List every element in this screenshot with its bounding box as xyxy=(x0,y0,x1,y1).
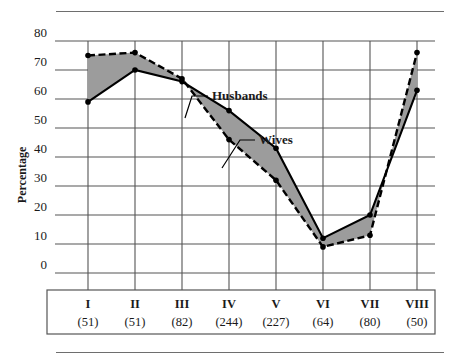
y-tick-60: 60 xyxy=(34,83,47,98)
wives-point-I xyxy=(85,99,91,105)
husbands-point-I xyxy=(85,53,91,59)
y-tick-80: 80 xyxy=(34,25,47,40)
annotation-label-husbands: Husbands xyxy=(212,88,268,103)
husbands-point-IV xyxy=(226,137,232,143)
y-tick-10: 10 xyxy=(34,228,47,243)
x-category-count-8: (50) xyxy=(407,315,428,329)
wives-point-IV xyxy=(226,108,232,114)
husbands-point-III xyxy=(179,76,185,82)
x-category-count-5: (227) xyxy=(262,315,289,329)
figure: Husbands Wives 80 70 60 50 40 30 20 10 0… xyxy=(0,0,460,362)
y-axis-title: Percentage xyxy=(15,146,29,203)
y-tick-30: 30 xyxy=(34,170,47,185)
x-category-label-1: I xyxy=(86,297,91,311)
y-tick-70: 70 xyxy=(34,54,47,69)
series-difference-band xyxy=(88,53,417,247)
x-axis-category-labels: I (51) II (51) III (82) IV (244) V (227)… xyxy=(78,297,429,329)
wives-point-VIII xyxy=(414,88,420,94)
husbands-point-VI xyxy=(320,244,326,250)
x-category-label-2: II xyxy=(130,297,140,311)
husbands-point-V xyxy=(273,177,279,183)
husbands-point-VIII xyxy=(414,50,420,56)
x-category-label-3: III xyxy=(175,297,190,311)
husbands-point-II xyxy=(132,50,138,56)
y-axis-tick-labels: 80 70 60 50 40 30 20 10 0 xyxy=(34,25,47,272)
y-tick-0: 0 xyxy=(41,257,48,272)
x-category-count-6: (64) xyxy=(313,315,334,329)
chart-plot-area: Husbands Wives 80 70 60 50 40 30 20 10 0… xyxy=(0,0,460,362)
x-category-count-7: (80) xyxy=(360,315,381,329)
chart-svg: Husbands Wives 80 70 60 50 40 30 20 10 0… xyxy=(0,0,460,362)
y-tick-50: 50 xyxy=(34,112,47,127)
y-tick-20: 20 xyxy=(34,199,47,214)
x-category-label-7: VII xyxy=(361,297,380,311)
x-category-label-6: VI xyxy=(316,297,330,311)
wives-point-VI xyxy=(320,235,326,241)
husbands-point-VII xyxy=(367,233,373,239)
wives-point-II xyxy=(132,67,138,73)
x-category-label-8: VIII xyxy=(405,297,429,311)
annotation-label-wives: Wives xyxy=(259,132,293,147)
y-tick-40: 40 xyxy=(34,141,47,156)
x-category-count-4: (244) xyxy=(215,315,242,329)
wives-point-VII xyxy=(367,212,373,218)
x-category-count-1: (51) xyxy=(78,315,99,329)
x-category-label-4: IV xyxy=(222,297,236,311)
x-gridlines xyxy=(88,41,417,290)
x-category-count-2: (51) xyxy=(125,315,146,329)
x-category-label-5: V xyxy=(271,297,280,311)
x-category-count-3: (82) xyxy=(172,315,193,329)
